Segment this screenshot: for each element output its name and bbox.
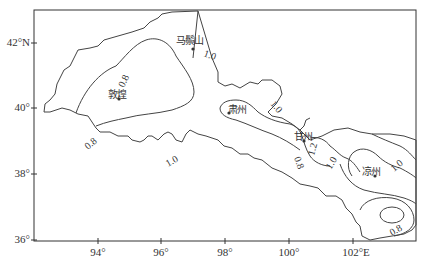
y-tick-label: 42°N — [0, 36, 30, 48]
map-frame — [34, 10, 416, 241]
x-tick-label: 102°E — [336, 246, 376, 258]
place-label-mazongshan: 马鬃山 — [176, 32, 203, 47]
region-boundary — [44, 11, 416, 240]
contour-map: 1.0 0.8 0.8 1.0 1.0 0.8 1.2 1.0 1.0 0.8 — [0, 0, 425, 265]
y-tick-label: 38° — [0, 167, 30, 179]
place-label-liangzhou: 凉州 — [362, 163, 380, 178]
contour-label: 0.8 — [82, 135, 99, 151]
contour-label: 1.0 — [268, 98, 284, 115]
contour-label: 0.8 — [388, 222, 404, 238]
contour-label: 1.2 — [305, 142, 319, 157]
contour-label: 0.8 — [292, 155, 307, 171]
x-tick-label: 100° — [269, 246, 309, 258]
contour-label: 1.0 — [388, 157, 405, 173]
y-tick-label: 40° — [0, 101, 30, 113]
contour-0.8-se — [360, 198, 414, 237]
place-label-dunhuang: 敦煌 — [108, 86, 126, 101]
contour-se-inner — [380, 207, 404, 223]
contour-label: 1.0 — [323, 155, 339, 171]
place-label-suzhou: 肃州 — [228, 101, 246, 116]
y-tick-label: 36° — [0, 233, 30, 245]
x-tick-label: 98° — [205, 246, 245, 258]
contour-0.8-dunhuang — [76, 39, 194, 126]
contour-liangzhou — [348, 149, 416, 178]
contour-label: 1.0 — [164, 153, 180, 169]
x-tick-label: 94° — [78, 246, 118, 258]
place-label-ganzhou: 甘州 — [294, 128, 312, 143]
x-tick-label: 96° — [141, 246, 181, 258]
contour-label: 1.0 — [202, 48, 218, 63]
